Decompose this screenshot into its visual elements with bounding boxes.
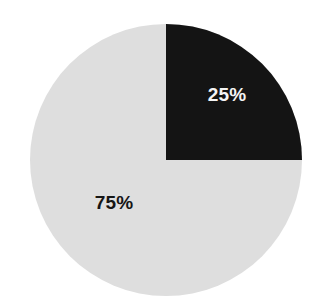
pie-chart-svg (0, 0, 317, 308)
pie-slice-label-dark: 25% (208, 85, 247, 104)
pie-slice-label-light: 75% (95, 193, 134, 212)
pie-chart-figure: 25% 75% (0, 0, 317, 308)
